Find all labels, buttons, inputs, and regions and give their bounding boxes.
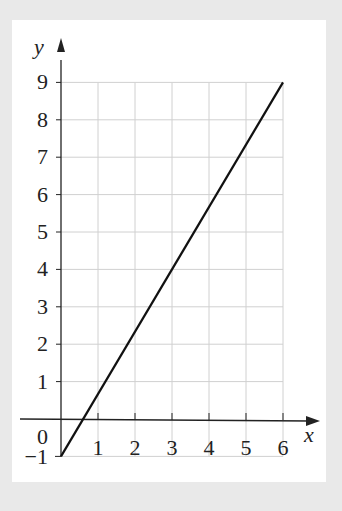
x-axis-label: x: [303, 422, 314, 447]
x-tick-label: 3: [167, 435, 178, 460]
y-axis-arrow-icon: [57, 38, 65, 52]
line-chart: 123456987654321−10yx: [0, 0, 342, 511]
x-axis: [20, 419, 310, 421]
x-tick-label: 2: [130, 435, 141, 460]
y-tick-label: 5: [37, 219, 48, 244]
y-tick-label: 1: [37, 369, 48, 394]
x-tick-label: 1: [93, 435, 104, 460]
y-tick-label: 8: [37, 107, 48, 132]
y-tick-label: 6: [37, 182, 48, 207]
origin-label: 0: [37, 424, 48, 449]
y-tick-label: 3: [37, 294, 48, 319]
y-tick-label: 4: [37, 256, 48, 281]
y-axis-label: y: [32, 34, 44, 59]
x-tick-label: 5: [241, 435, 252, 460]
x-tick-label: 6: [278, 435, 289, 460]
y-tick-label: 7: [37, 144, 48, 169]
x-tick-label: 4: [204, 435, 215, 460]
y-tick-label: 2: [37, 331, 48, 356]
y-tick-label: 9: [37, 69, 48, 94]
